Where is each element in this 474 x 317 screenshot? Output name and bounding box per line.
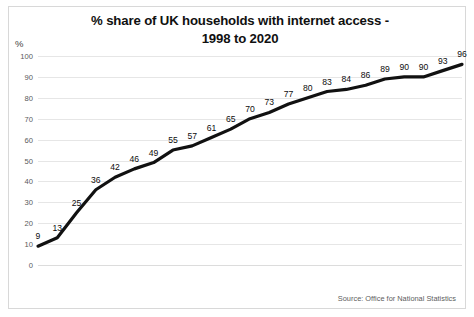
data-point-label: 70 [245, 104, 255, 114]
data-point-label: 86 [361, 70, 371, 80]
data-point-label: 57 [187, 131, 197, 141]
line-series-internet-access [38, 56, 462, 265]
data-point-label: 77 [284, 89, 294, 99]
data-point-label: 84 [342, 74, 352, 84]
data-point-label: 93 [438, 56, 448, 66]
plot-area: 0102030405060708090100 91325364246495557… [38, 56, 462, 265]
y-axis-tick-label: 100 [20, 52, 33, 61]
chart-container: % share of UK households with internet a… [0, 0, 474, 317]
data-point-label: 65 [226, 114, 236, 124]
y-axis-tick-label: 80 [25, 93, 33, 102]
data-point-label: 9 [36, 231, 41, 241]
data-point-label: 49 [149, 148, 159, 158]
y-axis-tick-label: 10 [25, 240, 33, 249]
y-axis-tick-label: 90 [25, 72, 33, 81]
data-point-label: 55 [168, 135, 178, 145]
data-point-label: 90 [399, 62, 409, 72]
data-point-label: 83 [322, 77, 332, 87]
data-point-label: 96 [457, 49, 467, 59]
source-note: Source: Office for National Statistics [338, 294, 456, 303]
y-axis-unit-label: % [15, 38, 23, 49]
gridline [38, 265, 462, 266]
data-point-label: 89 [380, 64, 390, 74]
data-point-label: 90 [419, 62, 429, 72]
y-axis-tick-label: 0 [29, 261, 33, 270]
chart-title-line-2: 1998 to 2020 [40, 30, 440, 48]
y-axis-tick-label: 70 [25, 114, 33, 123]
y-axis-tick-label: 30 [25, 198, 33, 207]
data-point-label: 36 [91, 175, 101, 185]
chart-title: % share of UK households with internet a… [40, 12, 440, 48]
data-point-label: 80 [303, 83, 313, 93]
data-point-label: 73 [264, 97, 274, 107]
y-axis-tick-label: 40 [25, 177, 33, 186]
data-point-label: 46 [130, 154, 140, 164]
series-polyline [38, 64, 462, 246]
y-axis-tick-label: 60 [25, 135, 33, 144]
data-point-label: 13 [52, 223, 62, 233]
y-axis-tick-label: 50 [25, 156, 33, 165]
data-point-label: 61 [207, 123, 217, 133]
chart-title-line-1: % share of UK households with internet a… [40, 12, 440, 30]
y-axis-tick-label: 20 [25, 219, 33, 228]
data-point-label: 42 [110, 162, 120, 172]
data-point-label: 25 [72, 198, 82, 208]
